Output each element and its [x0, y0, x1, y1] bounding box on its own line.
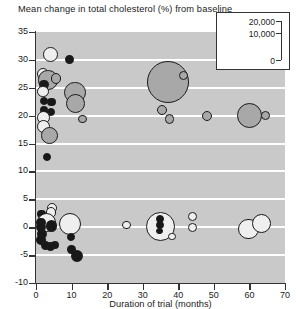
- gridline: [36, 143, 285, 145]
- data-point: [65, 55, 74, 64]
- y-tick: [29, 283, 36, 284]
- data-point: [147, 61, 189, 103]
- data-point: [43, 47, 58, 62]
- size-legend: 20,000 10,000 0: [216, 12, 290, 70]
- legend-bracket: [281, 21, 282, 60]
- y-tick: [29, 227, 36, 228]
- y-tick: [29, 144, 36, 145]
- legend-label-2: 0: [270, 56, 275, 66]
- data-point: [188, 212, 197, 221]
- data-point: [41, 127, 58, 144]
- data-point: [59, 213, 81, 235]
- y-tick-label: 15: [0, 138, 28, 148]
- y-tick-label: 35: [0, 26, 28, 36]
- data-point: [43, 153, 51, 161]
- y-tick: [29, 60, 36, 61]
- y-tick-label: 30: [0, 54, 28, 64]
- y-tick-label: -5: [0, 249, 28, 259]
- y-tick-label: 20: [0, 110, 28, 120]
- y-tick-label: 0: [0, 221, 28, 231]
- data-point: [37, 86, 49, 98]
- legend-label-0: 20,000: [249, 17, 275, 27]
- y-tick-label: 10: [0, 165, 28, 175]
- data-point: [51, 241, 59, 249]
- data-point: [67, 233, 75, 241]
- data-point: [202, 111, 212, 121]
- data-point: [78, 115, 87, 124]
- data-point: [261, 111, 270, 120]
- gridline: [36, 198, 285, 200]
- y-tick: [29, 88, 36, 89]
- data-point: [237, 103, 262, 128]
- data-point: [46, 220, 58, 232]
- data-point: [165, 114, 174, 123]
- data-point: [51, 73, 62, 84]
- y-tick-label: 25: [0, 82, 28, 92]
- data-point: [66, 94, 85, 113]
- y-tick-label: 5: [0, 193, 28, 203]
- y-tick: [29, 255, 36, 256]
- chart-screenshot: Mean change in total cholesterol (%) fro…: [0, 0, 296, 309]
- y-tick: [29, 116, 36, 117]
- legend-tick-2: [276, 60, 281, 61]
- data-point: [168, 233, 175, 240]
- data-point: [188, 223, 197, 232]
- y-tick-label: -10: [0, 277, 28, 287]
- y-tick: [29, 199, 36, 200]
- y-tick: [29, 171, 36, 172]
- y-tick: [29, 32, 36, 33]
- y-axis-line: [35, 31, 36, 284]
- data-point: [252, 214, 271, 233]
- x-axis-title: Duration of trial (months): [36, 299, 285, 309]
- gridline: [36, 170, 285, 172]
- data-point: [179, 71, 188, 80]
- data-point: [47, 98, 55, 106]
- legend-label-1: 10,000: [249, 29, 275, 39]
- data-point: [71, 250, 83, 262]
